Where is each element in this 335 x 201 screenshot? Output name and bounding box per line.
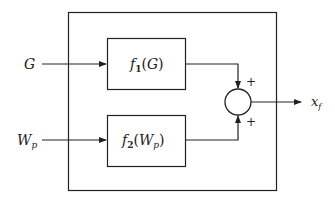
- output-label-xf: xf: [311, 94, 323, 111]
- summing-junction: [225, 89, 251, 115]
- input-label-wp: Wp: [17, 132, 37, 150]
- connector-f2-to-summer: [185, 116, 238, 140]
- connector-f1-to-summer: [185, 64, 238, 88]
- summer-sign-top: +: [246, 75, 256, 89]
- block-diagram: + + G Wp f1(G) f2(Wp) xf: [0, 0, 335, 201]
- summer-sign-bottom: +: [246, 115, 256, 129]
- block-f1-label: f1(G): [129, 56, 164, 74]
- input-label-g: G: [24, 56, 35, 72]
